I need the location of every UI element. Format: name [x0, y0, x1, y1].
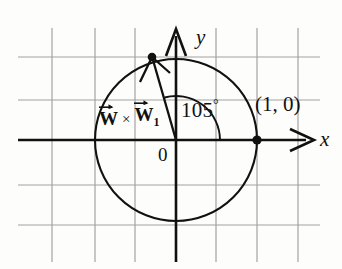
- angle-label: 105°: [181, 98, 219, 121]
- vector-terminal-point: [148, 53, 157, 62]
- point-marker-one-zero: [252, 135, 261, 144]
- vector-w-letter: W: [99, 108, 118, 129]
- vector-w-term: W: [99, 103, 118, 128]
- y-axis-label: y: [196, 27, 205, 48]
- grid-lines: [18, 28, 320, 262]
- cross-product-operator: ×: [118, 112, 134, 128]
- degree-symbol-icon: °: [213, 97, 219, 112]
- origin-label: 0: [158, 145, 168, 164]
- cross-product-label: W × W1: [99, 99, 159, 128]
- y-axis: [166, 29, 186, 262]
- angle-value: 105: [181, 98, 213, 122]
- x-axis-label: x: [320, 129, 329, 150]
- vector-arrow-accent-icon: [99, 103, 114, 109]
- vector-w1-subscript: 1: [153, 115, 159, 129]
- figure-canvas: [0, 0, 342, 269]
- vector-w1-term: W1: [134, 99, 159, 128]
- vector-arrow-accent-icon: [134, 99, 149, 105]
- vector-w1-letter: W: [134, 104, 153, 125]
- unit-circle-figure: y x 0 105° (1, 0) W × W1: [0, 0, 342, 269]
- point-label-one-zero: (1, 0): [255, 94, 301, 115]
